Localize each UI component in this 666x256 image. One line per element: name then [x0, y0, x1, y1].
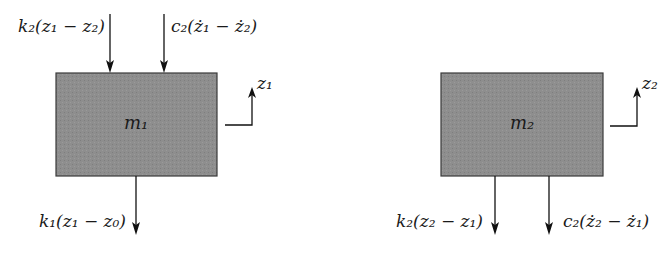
arrow-k1-force-m1 — [132, 176, 140, 235]
force-label-k2-m2: k₂(z₂ − z₁) — [396, 211, 483, 231]
arrow-c2-force-m2 — [545, 176, 553, 235]
displacement-arrow-z1 — [225, 87, 256, 125]
force-label-c2-m1: c₂(ż₁ − ż₂) — [171, 16, 257, 36]
arrow-k2-force-m1 — [106, 14, 114, 73]
displacement-label-z2: z₂ — [642, 73, 658, 93]
mass1-label: m₁ — [124, 112, 148, 133]
displacement-arrow-z2 — [610, 87, 641, 126]
force-label-k1-m1: k₁(z₁ − z₀) — [39, 211, 126, 231]
force-label-k2-m1: k₂(z₁ − z₂) — [18, 16, 105, 36]
force-label-c2-m2: c₂(ż₂ − ż₁) — [563, 211, 649, 231]
displacement-label-z1: z₁ — [257, 73, 273, 93]
mass2-label: m₂ — [510, 112, 534, 133]
arrow-c2-force-m1 — [160, 14, 168, 73]
arrow-k2-force-m2 — [491, 176, 499, 235]
